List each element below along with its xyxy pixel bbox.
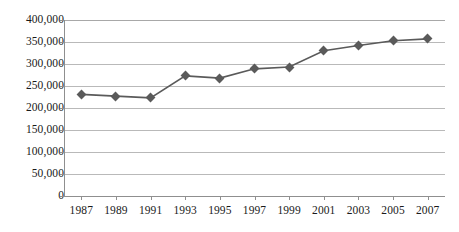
y-axis-labels: 050,000100,000150,000200,000250,000300,0…: [0, 0, 64, 232]
x-axis-tick-mark: [289, 196, 290, 200]
gridline: [64, 86, 445, 87]
y-axis-line: [64, 20, 65, 197]
gridline: [64, 130, 445, 131]
gridline: [64, 174, 445, 175]
plot-area: [64, 20, 445, 196]
y-axis-tick-label: 300,000: [4, 58, 64, 70]
x-axis-tick-mark: [116, 196, 117, 200]
y-axis-tick-label: 200,000: [4, 102, 64, 114]
x-axis-tick-mark: [151, 196, 152, 200]
x-axis-tick-mark: [393, 196, 394, 200]
x-axis-tick-label: 2007: [403, 205, 453, 217]
gridline: [64, 42, 445, 43]
y-axis-tick-label: 150,000: [4, 124, 64, 136]
y-axis-tick-label: 0: [4, 190, 64, 202]
gridline: [64, 108, 445, 109]
x-axis-tick-mark: [358, 196, 359, 200]
x-axis-tick-mark: [185, 196, 186, 200]
x-axis-tick-mark: [428, 196, 429, 200]
x-axis-tick-mark: [220, 196, 221, 200]
y-axis-tick-label: 50,000: [4, 168, 64, 180]
y-axis-tick-label: 400,000: [4, 14, 64, 26]
y-axis-tick-label: 250,000: [4, 80, 64, 92]
x-axis-tick-mark: [255, 196, 256, 200]
line-chart: 050,000100,000150,000200,000250,000300,0…: [0, 0, 459, 232]
y-axis-tick-label: 350,000: [4, 36, 64, 48]
y-axis-tick-label: 100,000: [4, 146, 64, 158]
gridline: [64, 20, 445, 21]
x-axis-tick-mark: [81, 196, 82, 200]
gridline: [64, 152, 445, 153]
x-axis-tick-mark: [324, 196, 325, 200]
